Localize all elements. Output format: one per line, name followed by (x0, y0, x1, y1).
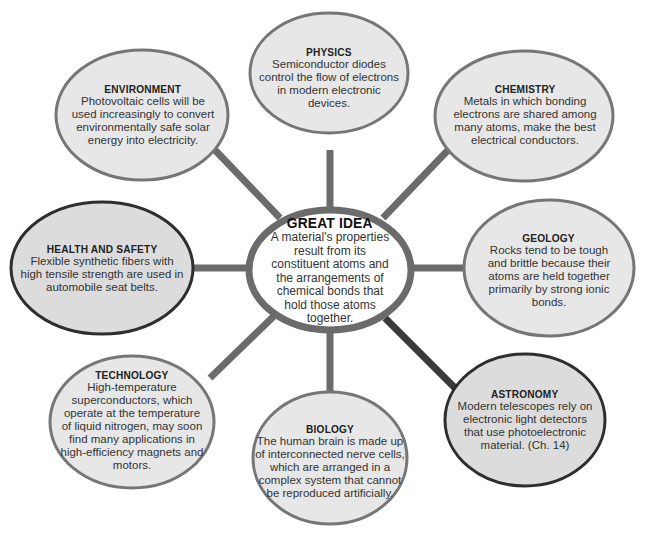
node-astronomy: ASTRONOMY Modern telescopes rely on elec… (450, 384, 600, 456)
node-title: BIOLOGY (306, 423, 354, 435)
node-body: Photovoltaic cells will be used increasi… (68, 95, 218, 147)
node-title: ENVIRONMENT (105, 83, 182, 95)
node-health-safety: HEALTH AND SAFETY Flexible synthetic fib… (12, 240, 192, 296)
node-body: Semiconductor diodes control the flow of… (255, 58, 403, 110)
node-body: The human brain is made up of interconne… (254, 435, 406, 500)
spoke-chemistry (383, 148, 450, 218)
node-body: Modern telescopes rely on electronic lig… (452, 400, 598, 452)
node-body: Flexible synthetic fibers with high tens… (19, 255, 185, 294)
node-body: Metals in which bonding electrons are sh… (442, 95, 608, 147)
node-body: Rocks tend to be tough and brittle becau… (482, 244, 616, 309)
node-technology: TECHNOLOGY High-temperature superconduct… (52, 364, 212, 476)
node-title: HEALTH AND SAFETY (47, 243, 158, 255)
node-physics: PHYSICS Semiconductor diodes control the… (250, 30, 408, 125)
node-environment: ENVIRONMENT Photovoltaic cells will be u… (58, 75, 228, 155)
spoke-environment (215, 150, 280, 218)
center-body: A material's properties result from its … (264, 231, 396, 326)
node-title: PHYSICS (306, 46, 352, 58)
node-body: High-temperature superconductors, which … (60, 381, 205, 472)
node-title: CHEMISTRY (495, 83, 556, 95)
node-biology: BIOLOGY The human brain is made up of in… (254, 418, 406, 504)
node-title: TECHNOLOGY (95, 369, 168, 381)
center-title: GREAT IDEA (287, 214, 373, 231)
node-geology: GEOLOGY Rocks tend to be tough and britt… (473, 222, 625, 318)
node-great-idea: GREAT IDEA A material's properties resul… (262, 218, 398, 322)
node-title: ASTRONOMY (491, 388, 558, 400)
node-chemistry: CHEMISTRY Metals in which bonding electr… (438, 75, 612, 155)
node-title: GEOLOGY (523, 232, 575, 244)
